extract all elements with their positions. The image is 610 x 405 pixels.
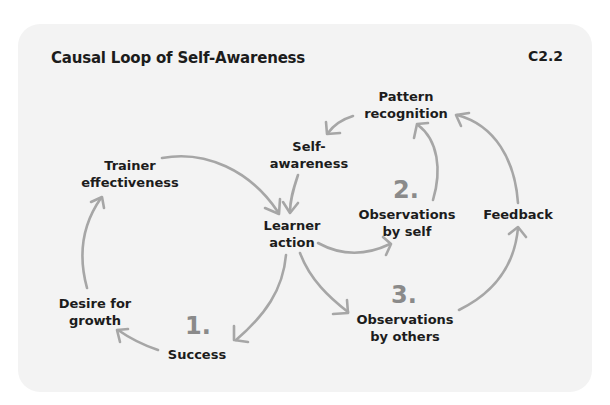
node-observations-by-self: Observations by self [358, 206, 455, 240]
node-observations-by-others: Observations by others [356, 311, 453, 345]
arrows-layer [0, 0, 610, 405]
step-number-2: 2. [393, 176, 419, 204]
arrow-learner-to-obsothers [300, 253, 348, 314]
node-desire-for-growth: Desire for growth [59, 295, 132, 329]
step-number-1: 1. [185, 312, 211, 340]
node-self-awareness: Self- awareness [270, 138, 348, 172]
arrow-trainer-to-learner [162, 156, 280, 214]
arrow-feedback-to-pattern [456, 113, 518, 203]
node-trainer-effectiveness: Trainer effectiveness [81, 157, 178, 191]
node-learner-action: Learner action [264, 217, 321, 251]
step-number-3: 3. [391, 281, 417, 309]
arrow-selfawareness-to-learner [283, 175, 298, 213]
node-feedback: Feedback [483, 206, 553, 223]
arrow-pattern-to-selfawareness [326, 116, 353, 134]
arrow-desire-to-trainer [82, 197, 104, 288]
node-success: Success [168, 346, 226, 363]
node-pattern-recognition: Pattern recognition [364, 88, 448, 122]
arrow-learner-to-success [234, 255, 286, 342]
arrow-obsothers-to-feedback [459, 227, 526, 310]
arrow-success-to-desire [117, 329, 158, 350]
